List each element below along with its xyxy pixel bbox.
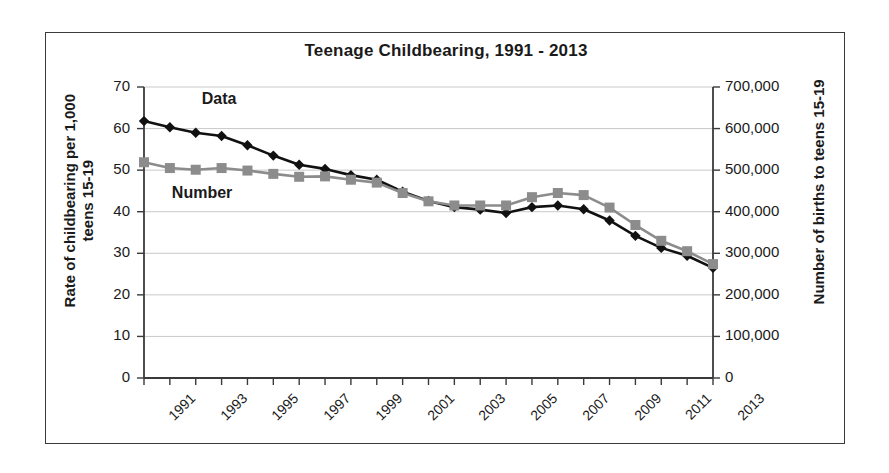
chart-area: Teenage Childbearing, 1991 - 2013 Rate o… [46, 33, 846, 445]
series-annotation-number: Number [172, 184, 232, 202]
series-annotation-data: Data [202, 90, 237, 108]
chart-figure-frame: Teenage Childbearing, 1991 - 2013 Rate o… [45, 32, 845, 444]
gridlines [144, 87, 713, 336]
plot-svg [46, 33, 846, 445]
